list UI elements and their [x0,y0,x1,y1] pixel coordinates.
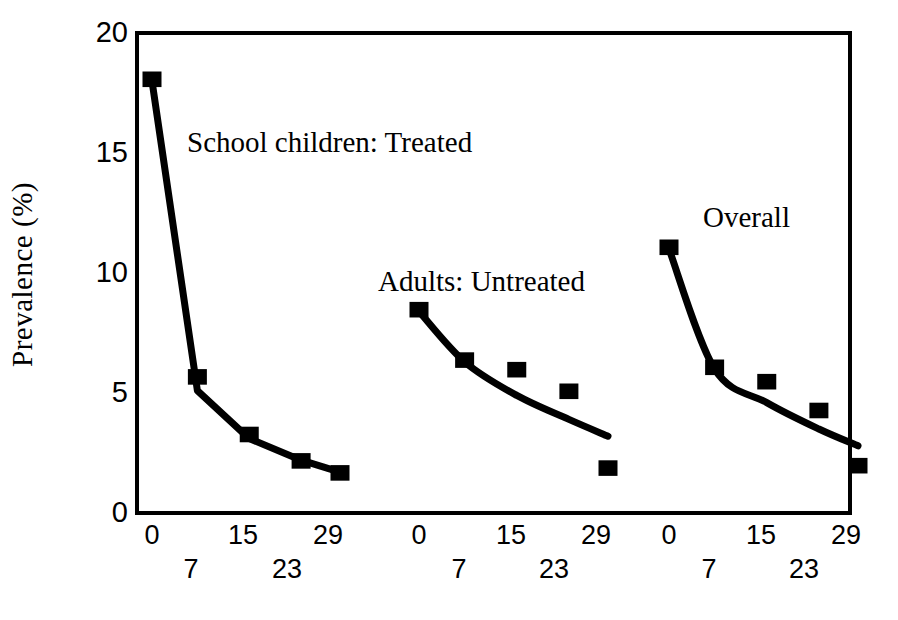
data-point-marker [331,465,350,481]
data-point-marker [757,374,776,390]
plot-area [0,0,898,620]
data-point-marker [660,240,679,256]
data-point-marker [143,72,162,88]
data-point-marker [240,427,259,443]
chart-figure: Prevalence (%) 20 15 10 5 0 School child… [0,0,898,620]
data-point-marker [455,352,474,368]
trend-line [152,81,340,472]
data-point-marker [599,460,618,476]
data-point-marker [705,360,724,376]
data-point-marker [809,403,828,419]
data-point-marker [559,384,578,400]
data-point-marker [410,302,429,318]
data-point-marker [849,458,868,474]
series-layer [143,72,868,481]
data-point-marker [507,362,526,378]
data-point-marker [188,369,207,385]
trend-line [669,249,858,446]
data-point-marker [292,453,311,469]
